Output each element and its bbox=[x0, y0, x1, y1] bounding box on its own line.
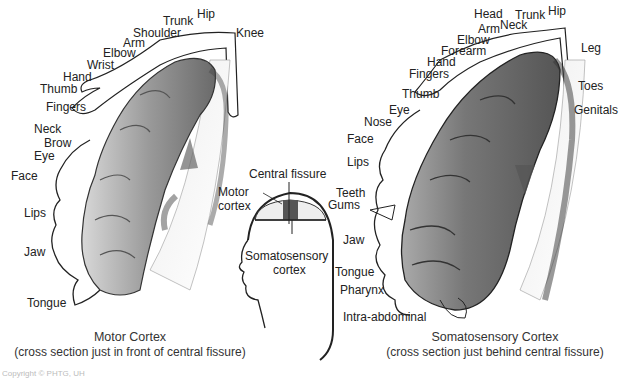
sensory-label-toes: Toes bbox=[578, 80, 603, 92]
sensory-label-head: Head bbox=[474, 8, 503, 20]
copyright-text: Copyright © PHTG, UH bbox=[2, 369, 85, 378]
sensory-label-thumb: Thumb bbox=[402, 88, 439, 100]
sensory-label-hip: Hip bbox=[548, 5, 566, 17]
sensory-homunculus bbox=[370, 28, 585, 318]
sensory-title: Somatosensory Cortex bbox=[360, 330, 630, 345]
motor-label-neck: Neck bbox=[34, 123, 61, 135]
motor-label-jaw: Jaw bbox=[24, 246, 45, 258]
motor-cortex-label-1: Motor bbox=[218, 186, 249, 198]
sensory-label-neck: Neck bbox=[500, 19, 527, 31]
sensory-label-fingers: Fingers bbox=[409, 68, 449, 80]
motor-label-fingers: Fingers bbox=[46, 101, 86, 113]
motor-label-knee: Knee bbox=[236, 27, 264, 39]
somatosensory-label-1: Somatosensory bbox=[245, 250, 328, 262]
motor-cortex-label-2: cortex bbox=[218, 200, 251, 212]
sensory-label-jaw: Jaw bbox=[343, 234, 364, 246]
sensory-label-genitals: Genitals bbox=[574, 104, 618, 116]
motor-subtitle: (cross section just in front of central … bbox=[0, 345, 260, 360]
sensory-caption: Somatosensory Cortex (cross section just… bbox=[360, 330, 630, 360]
motor-label-face: Face bbox=[11, 170, 38, 182]
sensory-label-leg: Leg bbox=[581, 42, 601, 54]
motor-caption: Motor Cortex (cross section just in fron… bbox=[0, 330, 260, 360]
motor-label-brow: Brow bbox=[44, 137, 71, 149]
sensory-label-nose: Nose bbox=[364, 116, 392, 128]
motor-label-tongue: Tongue bbox=[27, 297, 66, 309]
somatosensory-label-2: cortex bbox=[273, 264, 306, 276]
motor-label-lips: Lips bbox=[24, 207, 46, 219]
sensory-label-gums: Gums bbox=[328, 199, 360, 211]
sensory-label-intra-abdominal: Intra-abdominal bbox=[343, 311, 426, 323]
central-fissure-label: Central fissure bbox=[249, 168, 326, 180]
motor-label-eye: Eye bbox=[34, 150, 55, 162]
motor-title: Motor Cortex bbox=[0, 330, 260, 345]
sensory-label-tongue: Tongue bbox=[335, 266, 374, 278]
cortex-illustration bbox=[0, 0, 630, 379]
sensory-label-pharynx: Pharynx bbox=[340, 284, 384, 296]
motor-label-thumb: Thumb bbox=[40, 83, 77, 95]
motor-label-hip: Hip bbox=[197, 8, 215, 20]
sensory-label-eye: Eye bbox=[389, 104, 410, 116]
sensory-label-lips: Lips bbox=[347, 156, 369, 168]
sensory-label-face: Face bbox=[347, 133, 374, 145]
sensory-subtitle: (cross section just behind central fissu… bbox=[360, 345, 630, 360]
